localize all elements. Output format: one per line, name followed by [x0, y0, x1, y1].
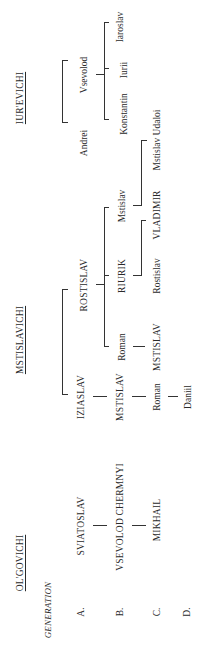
line-mstislav-roman [132, 396, 146, 397]
tick-vsevolod [62, 60, 68, 61]
family-header-mstislavichi: MSTISLAVICHI [15, 306, 25, 374]
person-mstislav-udaloi: Mstislav Udaloi [152, 110, 162, 171]
tick-andrei [62, 122, 68, 123]
tick-riurik [104, 275, 109, 276]
person-iurii: Iurii [119, 62, 129, 78]
person-mstislav-b2: Mstislav [117, 190, 127, 223]
person-konstantin: Konstantin [119, 93, 129, 135]
person-mstislav-b: MSTISLAV [115, 373, 125, 421]
family-header-olgovichi: OL'GOVICHI [15, 535, 25, 591]
person-roman-b: Roman [117, 333, 127, 360]
person-riurik: RIURIK [117, 259, 127, 293]
tick-iurii [104, 68, 109, 69]
person-rostislav-c: Rostislav [152, 258, 162, 293]
tick-iaroslav [104, 22, 109, 23]
line-roman-daniil [168, 396, 178, 397]
generation-c: C. [152, 608, 162, 617]
person-mstislav-c: MSTISLAV [152, 323, 162, 371]
connector-mstislav-udaloi [141, 140, 142, 206]
person-andrei: Andrei [79, 130, 89, 156]
person-vsevolod-chermnyi: VSEVOLOD CHERMNYI [115, 463, 125, 571]
line-rostislav-down [96, 284, 104, 285]
line-roman-mstislav [133, 346, 145, 347]
bracket-andrei-vsevolod [62, 60, 63, 123]
person-vladimir: VLADIMIR [152, 190, 162, 239]
bracket-tick-rostislav [62, 289, 68, 290]
bracket-tick-iziaslav [62, 394, 68, 395]
genealogy-diagram: OL'GOVICHI MSTISLAVICHI IUR'EVICHI GENER… [0, 0, 202, 651]
line-mstislav-down [133, 205, 141, 206]
tick-roman [104, 346, 109, 347]
person-vsevolod: Vsevolod [79, 57, 89, 93]
line-iziaslav-mstislav [93, 396, 107, 397]
line-vsevolod-mikhail [132, 525, 146, 526]
tick-vladimir [141, 220, 146, 221]
bracket-rostislav-children [104, 207, 105, 347]
generation-a: A. [76, 607, 86, 616]
person-daniil: Daniil [183, 385, 193, 409]
line-vsevolod-down [96, 74, 104, 75]
generation-d: D. [182, 607, 192, 616]
person-rostislav: ROSTISLAV [79, 259, 89, 312]
person-roman-c: Roman [152, 383, 162, 410]
family-header-iurevichi: IUR'EVICHI [15, 72, 25, 124]
person-mikhail: MIKHAIL [152, 499, 162, 542]
line-sviatoslav-vsevolod [93, 525, 107, 526]
bracket-riurik-children [141, 220, 142, 276]
generation-b: B. [115, 608, 125, 617]
tick-konstantin [104, 119, 109, 120]
bracket-iziaslav-rostislav [62, 289, 63, 395]
tick-udaloi [141, 140, 147, 141]
bracket-vsevolod-children [104, 22, 105, 120]
line-riurik-down [133, 275, 141, 276]
person-iaroslav: Iaroslav [115, 12, 125, 43]
generation-label: GENERATION [43, 582, 53, 639]
person-sviatoslav: SVIATOSLAV [76, 496, 86, 555]
person-iziaslav: IZIASLAV [76, 375, 86, 419]
tick-mstislav [104, 207, 109, 208]
